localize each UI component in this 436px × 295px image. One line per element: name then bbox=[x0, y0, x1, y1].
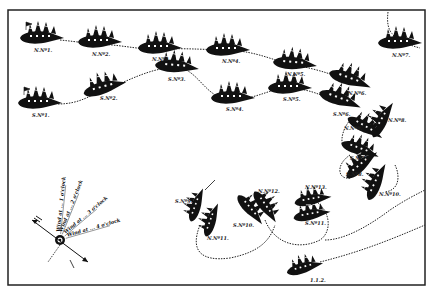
label-S1: S.Nº1. bbox=[32, 112, 50, 118]
ship-T1 bbox=[283, 249, 324, 277]
label-N3: N.Nº3. bbox=[151, 56, 171, 62]
label-N13: N.Nº13. bbox=[304, 184, 327, 190]
label-N2: N.Nº2. bbox=[91, 51, 111, 57]
label-N4: N.Nº4. bbox=[221, 58, 241, 64]
label-S5: S.Nº5. bbox=[283, 96, 301, 102]
label-N11: N.Nº11. bbox=[206, 235, 229, 241]
ship-N5 bbox=[273, 45, 319, 71]
label-N6: N.Nº6. bbox=[347, 90, 367, 96]
ship-N4 bbox=[206, 33, 250, 56]
wind-rose: Wind at ... 1 o'clock Wind at ... 2 o'cl… bbox=[32, 176, 121, 268]
ship-N7 bbox=[378, 26, 422, 49]
label-S3: S.Nº3. bbox=[168, 76, 186, 82]
label-S2: S.Nº2. bbox=[100, 95, 118, 101]
mast-detail bbox=[205, 180, 215, 190]
label-N1: N.Nº1. bbox=[33, 47, 53, 53]
label-S10: S.Nº10. bbox=[233, 222, 254, 228]
label-T1: 1.1.2. bbox=[310, 277, 326, 283]
ship-N6 bbox=[327, 57, 376, 93]
label-N7: N.Nº7. bbox=[391, 52, 411, 58]
label-N10: N.Nº10. bbox=[378, 191, 401, 197]
ship-S4 bbox=[211, 81, 255, 104]
label-S8: S.Nº8. bbox=[346, 171, 364, 177]
label-S9: S.Nº9. bbox=[175, 198, 193, 204]
ship-N2 bbox=[78, 25, 122, 48]
label-S4: S.Nº4. bbox=[226, 106, 244, 112]
label-N5: N.Nº5. bbox=[286, 71, 306, 77]
label-S11: S.Nº11. bbox=[305, 220, 326, 226]
label-N12: N.Nº12. bbox=[257, 188, 280, 194]
label-N8: N.Nº8. bbox=[387, 117, 407, 123]
battle-diagram: N.Nº1. N.Nº2. N.Nº3. N.Nº4. N.Nº5. N.Nº6… bbox=[0, 0, 436, 295]
ship-N3 bbox=[138, 31, 182, 54]
ship-N1 bbox=[20, 21, 64, 44]
label-N9: N.Nº9. bbox=[343, 125, 363, 131]
label-S6: S.Nº6. bbox=[333, 111, 351, 117]
label-S7: S.Nº7. bbox=[350, 155, 368, 161]
ship-S1 bbox=[18, 86, 62, 109]
